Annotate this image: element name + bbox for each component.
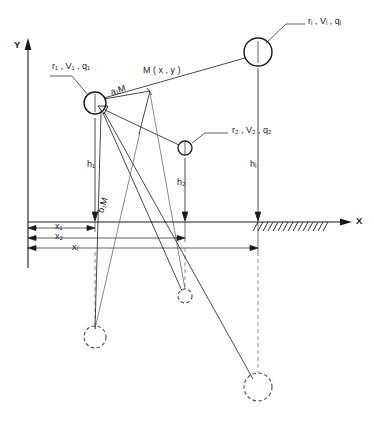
- conductor-2-param-label: r₂ , V₂ , q₂: [232, 126, 272, 135]
- conductor1-to-conductor2-line: [105, 110, 179, 145]
- x-distance-x1-label: x₁: [55, 222, 63, 231]
- conductor1-to-image-lines: [95, 112, 253, 379]
- figure-canvas: Y X r₁ , V₁ , q₁ r₂ , V₂ , q₂ rᵢ , Vᵢ , …: [0, 0, 374, 421]
- x-axis-arrowhead: [340, 219, 352, 226]
- x-distance-xi-label: xᵢ: [72, 243, 78, 252]
- height-h1-label: h₁: [87, 160, 95, 169]
- height-hi-label: hᵢ: [250, 160, 256, 169]
- mirror-axes: [95, 248, 258, 373]
- conductor-i-param-label: rᵢ , Vᵢ , qᵢ: [308, 17, 341, 26]
- y-axis-arrowhead: [25, 38, 32, 50]
- point-m-label: M ( x , y ): [143, 66, 181, 75]
- conductor-1-param-label: r₁ , V₁ , q₁: [52, 62, 90, 71]
- image-1-circle: [84, 326, 106, 348]
- image-2-circle: [178, 289, 192, 303]
- height-h2-label: h₂: [177, 178, 186, 187]
- image-circles: [84, 289, 272, 401]
- ground-hatching: [253, 222, 328, 231]
- y-axis: [25, 38, 32, 268]
- x-axis-label: X: [356, 216, 362, 226]
- x-axis: [28, 219, 352, 226]
- y-axis-label: Y: [14, 40, 20, 50]
- image-i-circle: [244, 373, 272, 401]
- m-to-image-lines: [95, 93, 185, 329]
- x-distance-x2-label: x₂: [55, 232, 63, 241]
